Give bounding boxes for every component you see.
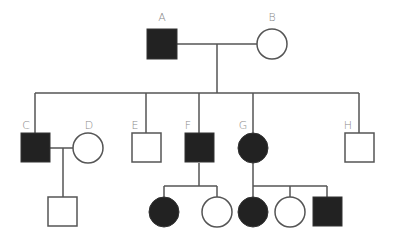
individual-f-affected-male	[185, 133, 214, 162]
individual-b-unaffected-female	[257, 29, 287, 59]
label-f: F	[185, 119, 191, 132]
child-f2-unaffected-female	[202, 197, 232, 227]
label-h: H	[344, 119, 352, 132]
label-g: G	[239, 119, 248, 132]
child-f1-affected-female	[149, 197, 179, 227]
label-d: D	[85, 119, 93, 132]
individual-a-affected-male	[147, 29, 177, 59]
label-c: C	[22, 119, 30, 132]
individual-h-unaffected-male	[345, 133, 374, 162]
pedigree-chart: A B C D E F G H	[0, 0, 397, 238]
child-g1-affected-female	[238, 197, 268, 227]
label-e: E	[132, 119, 139, 132]
individual-e-unaffected-male	[132, 133, 161, 162]
child-cd-unaffected-male	[48, 197, 77, 226]
label-b: B	[268, 11, 275, 24]
child-g2-unaffected-female	[275, 197, 305, 227]
individual-g-affected-female	[238, 133, 268, 163]
gen1-connectors	[35, 44, 359, 133]
individual-c-affected-male	[21, 133, 50, 162]
individual-d-unaffected-female	[73, 133, 103, 163]
label-a: A	[158, 11, 166, 24]
child-g3-affected-male	[313, 197, 342, 226]
